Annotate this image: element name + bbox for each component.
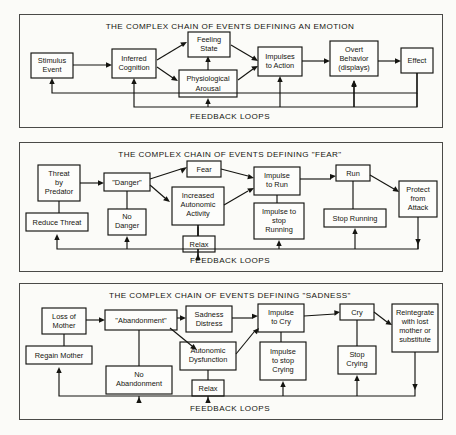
node-arousal-line-0: Physiological	[186, 74, 229, 83]
node-sadness-line-1: Distress	[196, 319, 223, 328]
feedback-loops-label: FEEDBACK LOOPS	[190, 256, 270, 265]
node-overt-line-1: Behavior	[339, 54, 369, 63]
node-increased-line-1: Autonomic	[181, 200, 216, 209]
node-impulserun-line-0: Impulse	[264, 171, 290, 180]
node-cry-line-0: Cry	[351, 308, 363, 317]
node-reint-line-1: with lost	[401, 317, 429, 326]
node-dysfunction-line-0: Autonomic	[191, 346, 226, 355]
node-feeling-line-1: State	[200, 44, 217, 53]
node-impulses-line-1: to Action	[266, 61, 294, 70]
node-relax-line-0: Relax	[199, 384, 218, 393]
node-threat-line-0: Threat	[48, 169, 69, 178]
panel-emotion: THE COMPLEX CHAIN OF EVENTS DEFINING AN …	[19, 14, 443, 128]
node-overt-line-0: Overt	[345, 45, 363, 54]
panel-emotion-svg: THE COMPLEX CHAIN OF EVENTS DEFINING AN …	[20, 15, 441, 126]
node-fear-line-0: Fear	[196, 165, 212, 174]
node-threat-line-2: Predator	[45, 187, 74, 196]
node-sadness-line-0: Sadness	[195, 310, 224, 319]
panel-title: THE COMPLEX CHAIN OF EVENTS DEFINING "FE…	[118, 150, 341, 159]
node-impstopcry-line-2: Crying	[272, 365, 293, 374]
panel-fear-svg: THE COMPLEX CHAIN OF EVENTS DEFINING "FE…	[20, 143, 441, 270]
node-loss-line-0: Loss of	[52, 312, 77, 321]
node-increased-line-0: Increased	[182, 191, 214, 200]
node-overt-line-2: (displays)	[338, 63, 370, 72]
node-stimulus-line-1: Event	[43, 65, 62, 74]
node-increased-line-2: Activity	[186, 209, 210, 218]
panel-sadness-svg: THE COMPLEX CHAIN OF EVENTS DEFINING "SA…	[20, 284, 441, 418]
node-stopcry-line-0: Stop	[349, 350, 364, 359]
node-impulserun-line-1: to Run	[266, 180, 288, 189]
node-cognition-line-0: Inferred	[121, 54, 146, 63]
node-impstopcry-line-1: to stop	[272, 356, 294, 365]
node-loss-line-1: Mother	[52, 321, 76, 330]
panel-title: THE COMPLEX CHAIN OF EVENTS DEFINING AN …	[106, 22, 355, 31]
figure-canvas: THE COMPLEX CHAIN OF EVENTS DEFINING AN …	[0, 0, 456, 435]
feedback-loops-label: FEEDBACK LOOPS	[190, 112, 270, 121]
node-protect-line-0: Protect	[406, 185, 429, 194]
node-run-line-0: Run	[346, 169, 360, 178]
node-danger-line-0: "Danger"	[112, 178, 142, 187]
feedback-loops-label: FEEDBACK LOOPS	[190, 404, 270, 413]
node-arousal-line-1: Arousal	[195, 84, 220, 93]
node-reint-line-2: mother or	[399, 326, 431, 335]
node-impstop-line-1: stop	[272, 216, 286, 225]
node-dysfunction-line-1: Dysfunction	[189, 355, 228, 364]
node-cognition-line-1: Cognition	[118, 63, 149, 72]
node-stoprun-line-0: Stop Running	[333, 214, 378, 223]
node-reint-line-3: substitute	[399, 335, 431, 344]
panel-title: THE COMPLEX CHAIN OF EVENTS DEFINING "SA…	[109, 291, 351, 300]
node-impstop-line-2: Running	[265, 225, 293, 234]
panel-sadness: THE COMPLEX CHAIN OF EVENTS DEFINING "SA…	[19, 283, 443, 420]
node-noabandon-line-1: Abandonment	[116, 379, 162, 388]
node-impstop-line-0: Impulse to	[262, 207, 296, 216]
node-impulsecry-line-1: to Cry	[271, 317, 291, 326]
node-relax-line-0: Relax	[190, 240, 209, 249]
node-abandon-line-0: "Abandonment"	[115, 316, 167, 325]
node-impulses-line-0: Impulses	[265, 52, 295, 61]
node-reduce-line-0: Reduce Threat	[33, 218, 82, 227]
node-impulsecry-line-0: Impulse	[268, 308, 294, 317]
node-regain-line-0: Regain Mother	[35, 351, 84, 360]
node-stopcry-line-1: Crying	[346, 359, 367, 368]
node-stimulus-line-0: Stimulus	[38, 56, 67, 65]
node-threat-line-1: by	[55, 178, 63, 187]
node-impstopcry-line-0: Impulse	[270, 347, 296, 356]
node-protect-line-1: from	[411, 194, 426, 203]
node-feeling-line-0: Feeling	[197, 35, 221, 44]
node-noabandon-line-0: No	[134, 370, 143, 379]
node-nodanger-line-1: Danger	[115, 221, 140, 230]
node-reint-line-0: Reintegrate	[396, 308, 434, 317]
node-effect-line-0: Effect	[408, 56, 427, 65]
node-nodanger-line-0: No	[122, 212, 131, 221]
panel-fear: THE COMPLEX CHAIN OF EVENTS DEFINING "FE…	[19, 142, 443, 272]
node-protect-line-2: Attack	[408, 203, 429, 212]
